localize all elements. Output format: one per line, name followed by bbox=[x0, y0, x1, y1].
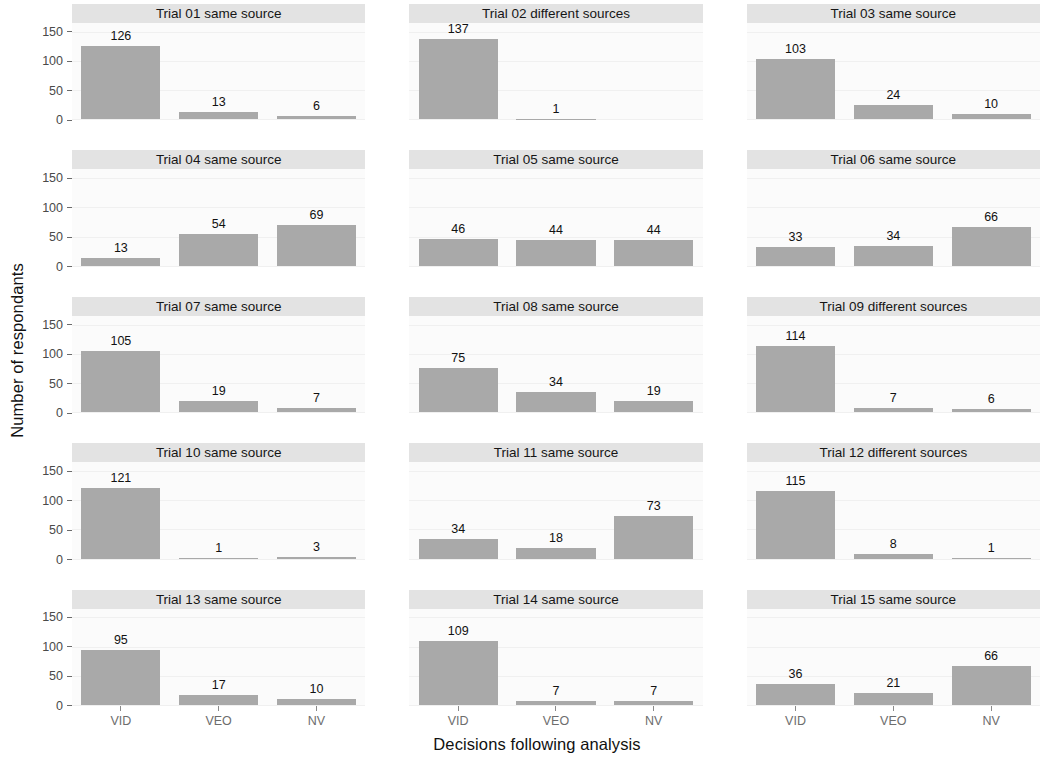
panel-title: Trial 10 same source bbox=[72, 443, 365, 462]
x-axis-tick-mark bbox=[653, 706, 654, 711]
gridline bbox=[747, 119, 1040, 120]
gridline bbox=[747, 412, 1040, 413]
bar-slot: 126 bbox=[81, 23, 160, 119]
bar-slot: 7 bbox=[854, 316, 933, 412]
bar-value-label: 75 bbox=[419, 351, 498, 365]
y-axis-tick-label: 50 bbox=[49, 669, 63, 683]
bar bbox=[81, 46, 160, 120]
x-axis-tick-label: VID bbox=[448, 714, 469, 728]
bar-value-label: 13 bbox=[179, 95, 258, 109]
bar-group: 341873 bbox=[409, 462, 702, 558]
bar-slot: 34 bbox=[516, 316, 595, 412]
y-axis-tick: 50 bbox=[49, 230, 72, 244]
y-axis-tick: 150 bbox=[42, 318, 72, 332]
x-axis-tick-label: VID bbox=[110, 714, 131, 728]
bar-value-label: 126 bbox=[81, 29, 160, 43]
y-axis-tick-label: 0 bbox=[56, 260, 63, 274]
plot-area: 105197 bbox=[72, 316, 365, 413]
bar bbox=[516, 701, 595, 705]
y-axis-title: Number of respondants bbox=[0, 0, 34, 700]
x-axis-tick-mark bbox=[316, 706, 317, 711]
plot-area: 11476 bbox=[747, 316, 1040, 413]
bar bbox=[756, 346, 835, 413]
y-axis-tick: 150 bbox=[717, 171, 747, 185]
bar-group: 11476 bbox=[747, 316, 1040, 412]
bar bbox=[756, 247, 835, 266]
bar-value-label: 73 bbox=[614, 499, 693, 513]
x-axis-tick-mark bbox=[218, 706, 219, 711]
y-axis-tick-label: 0 bbox=[56, 699, 63, 713]
bar-value-label: 44 bbox=[614, 223, 693, 237]
y-axis-tick: 100 bbox=[379, 347, 409, 361]
y-axis-tick: 150 bbox=[42, 171, 72, 185]
facet-panel: Trial 06 same source150100500333466VIDVE… bbox=[709, 150, 1040, 292]
bar bbox=[614, 401, 693, 412]
bar bbox=[614, 516, 693, 559]
x-axis-tick-mark bbox=[893, 706, 894, 711]
bar-value-label: 34 bbox=[419, 522, 498, 536]
bar bbox=[952, 558, 1031, 559]
facet-panel: Trial 04 same source150100500135469VIDVE… bbox=[34, 150, 365, 292]
bar bbox=[277, 116, 356, 120]
panel-title: Trial 12 different sources bbox=[747, 443, 1040, 462]
panel-plot-row: 150100500341873 bbox=[371, 462, 702, 559]
bar-group: 105197 bbox=[72, 316, 365, 412]
bar-value-label: 44 bbox=[516, 223, 595, 237]
bar-group: 1371 bbox=[409, 23, 702, 119]
y-axis-tick: 0 bbox=[393, 113, 409, 127]
y-axis-tick: 100 bbox=[379, 201, 409, 215]
facet-panel: Trial 11 same source150100500341873VIDVE… bbox=[371, 443, 702, 585]
panel-title: Trial 03 same source bbox=[747, 4, 1040, 23]
gridline bbox=[72, 559, 365, 560]
gridline bbox=[72, 412, 365, 413]
bar-slot: 66 bbox=[952, 169, 1031, 265]
bar-value-label: 17 bbox=[179, 678, 258, 692]
y-axis: 150100500 bbox=[34, 169, 72, 266]
bar-value-label: 24 bbox=[854, 88, 933, 102]
x-axis-tick: NV bbox=[942, 706, 1040, 728]
y-axis-tick: 50 bbox=[724, 377, 747, 391]
bar-value-label: 54 bbox=[179, 217, 258, 231]
bar-slot: 13 bbox=[81, 169, 160, 265]
y-axis-tick-label: 50 bbox=[49, 523, 63, 537]
bar bbox=[854, 554, 933, 559]
bar-slot: 109 bbox=[419, 609, 498, 705]
bar-slot: 7 bbox=[277, 316, 356, 412]
bar-slot: 46 bbox=[419, 169, 498, 265]
y-axis-tick: 150 bbox=[42, 610, 72, 624]
bar-value-label: 7 bbox=[516, 684, 595, 698]
gridline bbox=[409, 412, 702, 413]
bar-slot: 7 bbox=[614, 609, 693, 705]
x-axis-tick: VID bbox=[72, 706, 170, 728]
x-axis-tick-mark bbox=[555, 706, 556, 711]
y-axis-tick: 0 bbox=[56, 260, 72, 274]
bar bbox=[81, 488, 160, 559]
panel-plot-row: 1501005001032410 bbox=[709, 23, 1040, 120]
y-axis-tick-label: 150 bbox=[42, 318, 63, 332]
y-axis: 150100500 bbox=[709, 23, 747, 120]
bar-value-label: 34 bbox=[516, 375, 595, 389]
bar-group: 135469 bbox=[72, 169, 365, 265]
bar-slot: 44 bbox=[516, 169, 595, 265]
bar bbox=[419, 368, 498, 412]
y-axis: 150100500 bbox=[34, 609, 72, 706]
gridline bbox=[747, 559, 1040, 560]
bar-slot: 34 bbox=[419, 462, 498, 558]
y-axis: 150100500 bbox=[709, 462, 747, 559]
gridline bbox=[409, 559, 702, 560]
bar-value-label: 109 bbox=[419, 624, 498, 638]
y-axis-tick: 50 bbox=[724, 84, 747, 98]
y-axis-tick: 50 bbox=[386, 377, 409, 391]
y-axis-tick: 100 bbox=[42, 54, 72, 68]
bar-slot: 44 bbox=[614, 169, 693, 265]
bar-group: 333466 bbox=[747, 169, 1040, 265]
y-axis-tick: 0 bbox=[56, 699, 72, 713]
facet-panel: Trial 05 same source150100500464444VIDVE… bbox=[371, 150, 702, 292]
bar-value-label: 66 bbox=[952, 649, 1031, 663]
y-axis-tick: 150 bbox=[379, 25, 409, 39]
bar bbox=[854, 408, 933, 412]
bar-slot: 75 bbox=[419, 316, 498, 412]
bar-value-label: 6 bbox=[277, 99, 356, 113]
y-axis-tick: 0 bbox=[731, 113, 747, 127]
bar-slot: 121 bbox=[81, 462, 160, 558]
